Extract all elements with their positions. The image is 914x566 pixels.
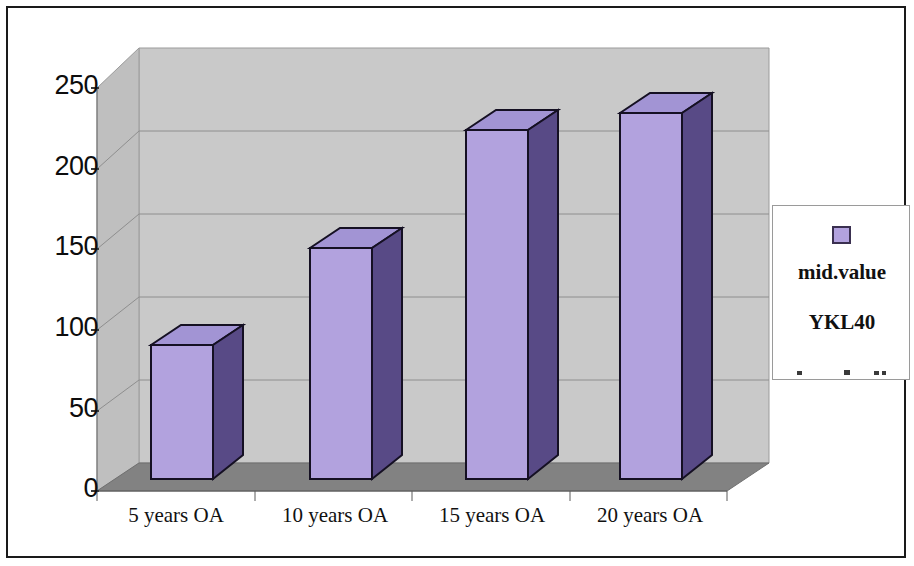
bar-front-face xyxy=(620,113,682,479)
x-tick-15-years-oa: 15 years OA xyxy=(407,505,577,526)
bar-front-face xyxy=(310,248,372,479)
legend-scan-artifacts xyxy=(773,206,911,381)
bar-15-years-oa[interactable] xyxy=(466,110,558,479)
y-tick-50: 50 xyxy=(12,395,98,422)
y-axis-labels: 250 200 150 100 50 0 xyxy=(0,0,98,566)
y-tick-150: 150 xyxy=(12,233,98,260)
bar-5-years-oa[interactable] xyxy=(151,325,243,479)
bar-front-face xyxy=(151,345,213,479)
bar-side-face xyxy=(213,325,243,479)
bar-10-years-oa[interactable] xyxy=(310,228,402,479)
y-tick-100: 100 xyxy=(12,314,98,341)
x-tick-5-years-oa: 5 years OA xyxy=(96,505,256,526)
bar-side-face xyxy=(372,228,402,479)
y-tick-250: 250 xyxy=(12,72,98,99)
x-tick-10-years-oa: 10 years OA xyxy=(250,505,420,526)
bar-front-face xyxy=(466,130,528,479)
bar-20-years-oa[interactable] xyxy=(620,93,712,479)
chart-legend: mid.value YKL40 xyxy=(772,205,910,380)
y-tick-0: 0 xyxy=(12,475,98,502)
bar-side-face xyxy=(528,110,558,479)
x-tick-20-years-oa: 20 years OA xyxy=(565,505,735,526)
y-tick-200: 200 xyxy=(12,153,98,180)
chart-side-wall xyxy=(97,48,139,491)
bar-side-face xyxy=(682,93,712,479)
x-axis-ticks xyxy=(97,491,727,501)
x-axis-labels: 5 years OA 10 years OA 15 years OA 20 ye… xyxy=(0,505,790,545)
